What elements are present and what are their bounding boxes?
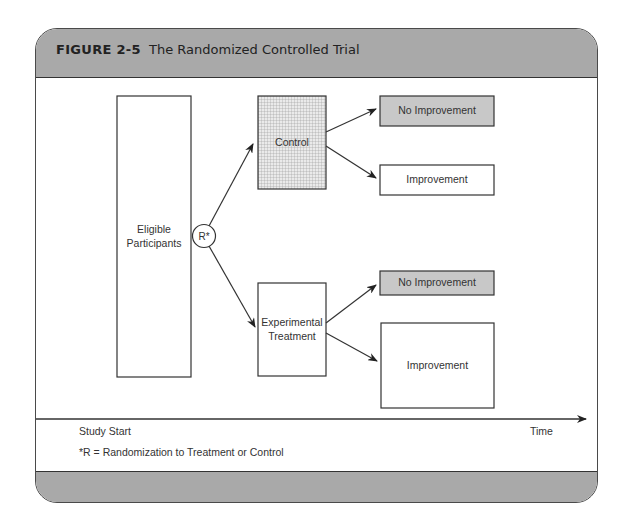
control-improvement-label: Improvement [380, 165, 494, 195]
arrow-treatment-no-improvement [326, 285, 376, 323]
experimental-treatment-label: Experimental Treatment [258, 283, 326, 376]
footnote: *R = Randomization to Treatment or Contr… [79, 446, 284, 458]
timeline-end-label: Time [530, 425, 553, 437]
randomization-label: R* [192, 224, 216, 248]
treatment-improvement-label: Improvement [381, 323, 494, 408]
control-label: Control [258, 96, 326, 189]
arrow-control-no-improvement [326, 109, 376, 132]
arrow-to-experimental [209, 246, 255, 327]
arrow-control-improvement [326, 146, 376, 178]
treatment-no-improvement-label: No Improvement [380, 271, 494, 295]
arrow-treatment-improvement [326, 333, 377, 361]
arrow-to-control [209, 144, 253, 226]
control-no-improvement-label: No Improvement [380, 96, 494, 126]
timeline-start-label: Study Start [79, 425, 131, 437]
eligible-participants-label: Eligible Participants [117, 96, 191, 377]
